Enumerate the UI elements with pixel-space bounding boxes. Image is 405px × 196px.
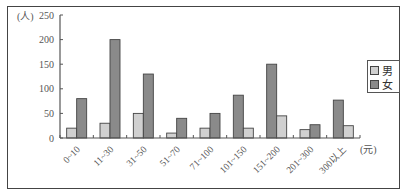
x-tick-label: 11~30 bbox=[92, 144, 116, 168]
legend-item-male: 男 bbox=[370, 63, 397, 77]
x-tick-label: 300以上 bbox=[317, 144, 348, 175]
bar bbox=[267, 64, 277, 138]
x-tick-label: 31~50 bbox=[125, 144, 149, 168]
bar bbox=[167, 133, 177, 138]
x-tick-label: 201~300 bbox=[285, 144, 316, 175]
bar bbox=[177, 118, 187, 138]
x-axis: 0~1011~3031~5051~7071~100101~150151~2002… bbox=[60, 135, 360, 176]
bar bbox=[67, 128, 77, 138]
legend-swatch-female bbox=[370, 80, 379, 89]
x-tick-label: 0~10 bbox=[61, 144, 82, 165]
y-axis-unit: (人) bbox=[17, 11, 34, 23]
x-axis-unit: (元) bbox=[360, 144, 377, 156]
bar bbox=[233, 95, 243, 138]
bar bbox=[110, 40, 120, 138]
legend: 男 女 bbox=[367, 60, 400, 93]
y-tick-label: 50 bbox=[44, 108, 54, 119]
y-tick-label: 200 bbox=[39, 34, 54, 45]
y-tick-label: 100 bbox=[39, 83, 54, 94]
bar bbox=[133, 113, 143, 138]
bar bbox=[100, 123, 110, 138]
bar bbox=[77, 99, 87, 138]
legend-label-female: 女 bbox=[382, 76, 393, 92]
x-tick-label: 71~100 bbox=[188, 144, 216, 172]
x-tick-label: 151~200 bbox=[251, 144, 282, 175]
bar-chart: 050100150200250 0~1011~3031~5051~7071~10… bbox=[0, 0, 405, 196]
x-tick-label: 101~150 bbox=[218, 144, 249, 175]
bar bbox=[243, 128, 253, 138]
y-tick-label: 0 bbox=[49, 133, 54, 144]
legend-swatch-male bbox=[370, 66, 379, 75]
bar bbox=[143, 74, 153, 138]
x-tick-label: 51~70 bbox=[158, 144, 182, 168]
bar bbox=[333, 100, 343, 138]
bar bbox=[310, 125, 320, 138]
bar bbox=[200, 128, 210, 138]
bar bbox=[343, 126, 353, 138]
y-tick-label: 150 bbox=[39, 59, 54, 70]
bars bbox=[67, 40, 354, 138]
bar bbox=[210, 113, 220, 138]
y-tick-label: 250 bbox=[39, 10, 54, 21]
legend-item-female: 女 bbox=[370, 77, 397, 91]
bar bbox=[300, 130, 310, 138]
y-axis: 050100150200250 bbox=[39, 10, 63, 144]
bar bbox=[277, 116, 287, 138]
